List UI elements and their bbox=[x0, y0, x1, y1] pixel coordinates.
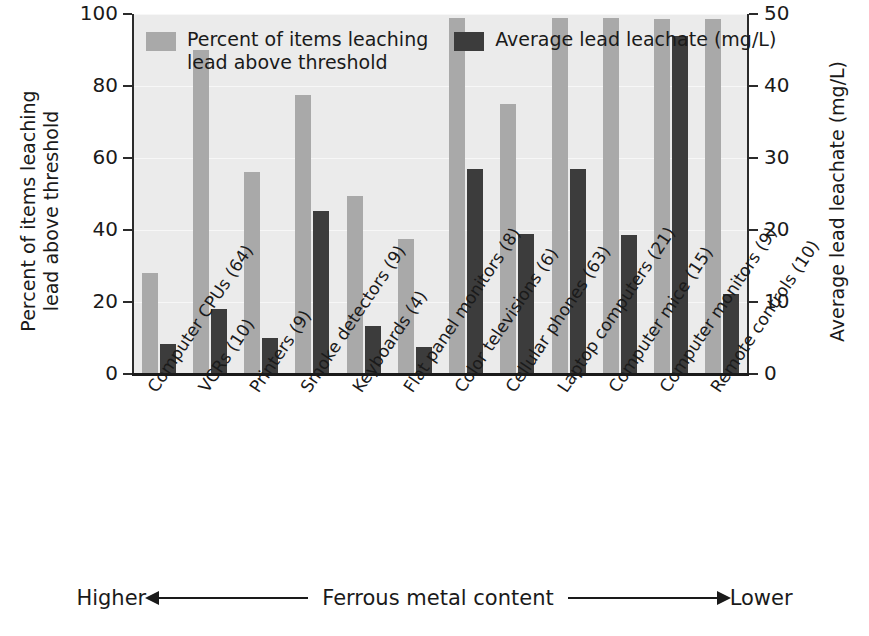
bar-average-leachate bbox=[672, 36, 688, 374]
bar-percent-leaching bbox=[295, 95, 311, 374]
y-axis-left-line bbox=[132, 14, 134, 374]
footer-center-label: Ferrous metal content bbox=[322, 586, 553, 610]
legend-swatch-light-icon bbox=[146, 32, 176, 51]
ferrous-metal-content-annotation: Higher Ferrous metal content Lower bbox=[0, 586, 869, 610]
y-axis-left-title-line2: lead above threshold bbox=[40, 46, 63, 376]
footer-right-label: Lower bbox=[730, 586, 793, 610]
chart-figure: 020406080100 01020304050 Percent of item… bbox=[0, 0, 869, 636]
bar-average-leachate bbox=[570, 169, 586, 374]
y-axis-left-tick bbox=[123, 373, 132, 375]
y-axis-right-tick-label: 20 bbox=[764, 219, 789, 239]
bar-average-leachate bbox=[416, 347, 432, 374]
bar-average-leachate bbox=[518, 234, 534, 374]
y-axis-right-tick-label: 40 bbox=[764, 75, 789, 95]
y-axis-left-ticks: 020406080100 bbox=[56, 0, 118, 636]
y-axis-right-tick bbox=[749, 157, 758, 159]
y-axis-right-title: Average lead leachate (mg/L) bbox=[826, 37, 849, 367]
y-axis-left-tick bbox=[123, 301, 132, 303]
y-axis-right-tick bbox=[749, 229, 758, 231]
y-axis-left-tick-label: 20 bbox=[56, 291, 118, 311]
bar-percent-leaching bbox=[500, 104, 516, 374]
y-axis-right-tick bbox=[749, 85, 758, 87]
bar-average-leachate bbox=[313, 211, 329, 374]
y-axis-left-tick-label: 80 bbox=[56, 75, 118, 95]
y-axis-right-ticks: 01020304050 bbox=[764, 0, 834, 636]
bar-average-leachate bbox=[262, 338, 278, 374]
chart-legend: Percent of items leachinglead above thre… bbox=[146, 28, 776, 74]
y-axis-left-tick bbox=[123, 85, 132, 87]
bar-average-leachate bbox=[467, 169, 483, 374]
bar-percent-leaching bbox=[398, 239, 414, 374]
x-axis-line bbox=[132, 373, 749, 376]
legend-swatch-dark-icon bbox=[454, 32, 484, 51]
bar-percent-leaching bbox=[347, 196, 363, 374]
y-axis-left-tick bbox=[123, 13, 132, 15]
y-axis-left-tick bbox=[123, 229, 132, 231]
bar-average-leachate bbox=[160, 344, 176, 374]
y-axis-left-tick-label: 60 bbox=[56, 147, 118, 167]
y-axis-left-tick-label: 0 bbox=[56, 363, 118, 383]
y-axis-left-tick-label: 40 bbox=[56, 219, 118, 239]
y-axis-right-tick bbox=[749, 373, 758, 375]
bar-average-leachate bbox=[723, 294, 739, 374]
bar-average-leachate bbox=[365, 326, 381, 374]
y-axis-right-tick bbox=[749, 301, 758, 303]
y-axis-right-tick-label: 10 bbox=[764, 291, 789, 311]
y-axis-right-tick-label: 30 bbox=[764, 147, 789, 167]
legend-item-percent: Percent of items leachinglead above thre… bbox=[146, 28, 428, 74]
y-axis-right-tick bbox=[749, 13, 758, 15]
y-axis-left-tick-label: 100 bbox=[56, 3, 118, 23]
y-axis-right-tick-label: 50 bbox=[764, 3, 789, 23]
arrow-left-icon bbox=[158, 597, 308, 599]
arrow-right-icon bbox=[568, 597, 718, 599]
bar-average-leachate bbox=[621, 235, 637, 374]
legend-item-leachate: Average lead leachate (mg/L) bbox=[454, 28, 776, 51]
footer-left-label: Higher bbox=[76, 586, 146, 610]
legend-label-percent: Percent of items leachinglead above thre… bbox=[187, 28, 428, 74]
y-axis-right-tick-label: 0 bbox=[764, 363, 777, 383]
legend-label-leachate: Average lead leachate (mg/L) bbox=[495, 28, 776, 51]
bar-percent-leaching bbox=[193, 50, 209, 374]
y-axis-left-title: Percent of items leaching lead above thr… bbox=[17, 46, 63, 376]
bar-percent-leaching bbox=[142, 273, 158, 374]
y-axis-left-title-line1: Percent of items leaching bbox=[17, 46, 40, 376]
bar-average-leachate bbox=[211, 309, 227, 374]
bar-percent-leaching bbox=[244, 172, 260, 374]
y-axis-left-tick bbox=[123, 157, 132, 159]
